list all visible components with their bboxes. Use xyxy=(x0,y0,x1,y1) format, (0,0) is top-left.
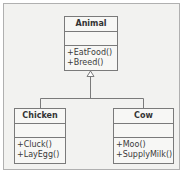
attributes-section xyxy=(65,32,117,46)
class-animal[interactable]: Animal +EatFood() +Breed() xyxy=(64,16,118,71)
method: +Breed() xyxy=(67,58,117,68)
class-name: Chicken xyxy=(15,109,65,124)
class-chicken[interactable]: Chicken +Cluck() +LayEgg() xyxy=(14,108,66,164)
class-cow[interactable]: Cow +Moo() +SupplyMilk() xyxy=(113,108,174,164)
generalization-arrowhead-icon xyxy=(87,71,94,77)
method: +EatFood() xyxy=(67,48,117,58)
attributes-section xyxy=(15,124,65,138)
class-name: Animal xyxy=(65,17,117,32)
methods-section: +Moo() +SupplyMilk() xyxy=(114,138,173,163)
method: +SupplyMilk() xyxy=(116,150,173,160)
methods-section: +EatFood() +Breed() xyxy=(65,46,117,70)
class-name: Cow xyxy=(114,109,173,124)
method: +LayEgg() xyxy=(17,150,65,160)
methods-section: +Cluck() +LayEgg() xyxy=(15,138,65,163)
attributes-section xyxy=(114,124,173,138)
method: +Moo() xyxy=(116,140,173,150)
method: +Cluck() xyxy=(17,140,65,150)
